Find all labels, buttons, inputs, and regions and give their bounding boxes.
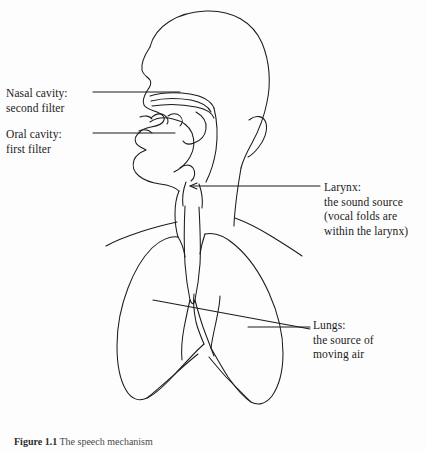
label-larynx-line4: within the larynx) — [324, 224, 408, 239]
nasal-cavity-upper — [150, 93, 214, 108]
figure-caption-text: The speech mechanism — [59, 436, 152, 447]
label-larynx-line3: (vocal folds are — [324, 209, 408, 224]
label-larynx: Larynx: the sound source (vocal folds ar… — [324, 180, 408, 238]
shoulder-left — [106, 222, 177, 246]
jaw-and-chin-outline — [133, 132, 179, 191]
neck-back — [234, 168, 241, 226]
label-lungs-line1: Lungs: — [313, 318, 374, 333]
bronchus-left — [182, 300, 190, 360]
larynx-outline-back — [199, 184, 202, 208]
epiglottis — [180, 165, 195, 181]
diaphragm-left — [147, 354, 198, 398]
label-oral-line1: Oral cavity: — [6, 127, 62, 142]
right-lung-hilum — [211, 296, 220, 348]
leader-line-lungs-upper — [153, 300, 310, 329]
soft-palate — [183, 112, 206, 144]
tongue-tip-detail — [151, 114, 168, 124]
figure-caption: Figure 1.1 The speech mechanism — [14, 436, 153, 448]
figure-container: Nasal cavity: second filter Oral cavity:… — [0, 0, 426, 450]
label-nasal-line1: Nasal cavity: — [6, 86, 68, 101]
nasal-cavity-floor — [152, 105, 214, 118]
ear-outline — [248, 116, 267, 157]
label-oral-cavity: Oral cavity: first filter — [6, 127, 62, 156]
label-lungs-line2: the source of — [313, 333, 374, 348]
label-oral-line2: first filter — [6, 142, 62, 157]
label-lungs: Lungs: the source of moving air — [313, 318, 374, 362]
trachea-left-wall — [184, 206, 190, 300]
upper-lip-detail — [140, 116, 152, 119]
label-nasal-cavity: Nasal cavity: second filter — [6, 86, 68, 115]
label-nasal-line2: second filter — [6, 101, 68, 116]
larynx-outline-front — [183, 182, 186, 206]
carina-detail — [190, 300, 195, 304]
head-outline-cranium — [150, 11, 269, 168]
neck-front — [175, 191, 179, 237]
figure-caption-number: Figure 1.1 — [14, 436, 57, 447]
left-lung-outline — [117, 237, 204, 400]
label-larynx-line1: Larynx: — [324, 180, 408, 195]
label-larynx-line2: the sound source — [324, 195, 408, 210]
label-lungs-line3: moving air — [313, 347, 374, 362]
pharynx-back-wall — [206, 108, 217, 182]
shoulder-right — [235, 218, 302, 256]
